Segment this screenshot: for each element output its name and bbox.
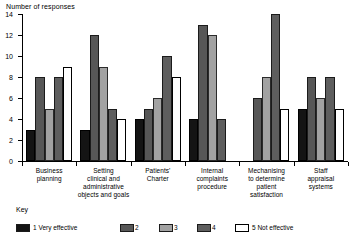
x-axis-category-label: Internalcomplaintsprocedure — [185, 167, 239, 191]
legend-swatch-icon — [159, 224, 173, 232]
legend-swatch-icon — [197, 224, 211, 232]
legend-swatch-icon — [16, 224, 30, 232]
bar-series-5-group-1 — [63, 67, 72, 162]
legend-item-5: 5 Not effective — [235, 222, 293, 234]
bar-series-2-group-1 — [35, 77, 44, 161]
x-axis-tick — [185, 162, 186, 166]
legend-swatch-icon — [235, 224, 249, 232]
bar-group — [22, 14, 76, 161]
legend-item-4: 4 — [197, 222, 216, 234]
category-label-line: Setting — [76, 167, 130, 175]
category-label-line: Staff — [294, 167, 348, 175]
x-axis-category-label: Staffappraisalsystems — [294, 167, 348, 191]
category-label-line: complaints — [185, 175, 239, 183]
bar-series-2-group-4 — [198, 25, 207, 162]
category-label-line: satisfaction — [239, 191, 293, 199]
category-label-line: clinical and — [76, 175, 130, 183]
y-axis-tick-label: 14 — [5, 11, 13, 18]
bar-series-4-group-1 — [54, 77, 63, 161]
bar-group — [294, 14, 348, 161]
x-axis-tick — [22, 162, 23, 166]
y-axis-tick-label: 12 — [5, 32, 13, 39]
x-axis-tick — [348, 162, 349, 166]
x-axis-category-label: Patients'Charter — [131, 167, 185, 183]
legend-item-2: 2 — [120, 222, 139, 234]
legend-title: Key — [16, 206, 28, 214]
category-label-line: administrative — [76, 183, 130, 191]
legend-label: 2 — [135, 224, 139, 232]
category-label-line: objects and goals — [76, 191, 130, 199]
category-label-line: planning — [22, 175, 76, 183]
bar-series-5-group-6 — [335, 109, 344, 162]
bar-series-2-group-3 — [144, 109, 153, 162]
bar-chart: Number of responses 02468101214 Business… — [0, 0, 354, 238]
category-label-line: procedure — [185, 183, 239, 191]
bar-series-3-group-2 — [99, 67, 108, 162]
bar-series-4-group-2 — [108, 109, 117, 162]
bar-series-3-group-3 — [153, 98, 162, 161]
bar-series-5-group-3 — [172, 77, 181, 161]
category-label-line: systems — [294, 183, 348, 191]
category-label-line: Patients' — [131, 167, 185, 175]
bar-series-1-group-2 — [80, 130, 89, 162]
y-axis-tick-label: 0 — [9, 158, 13, 165]
bar-series-1-group-1 — [26, 130, 35, 162]
y-axis-tick-label: 8 — [9, 74, 13, 81]
legend-item-3: 3 — [159, 222, 178, 234]
legend-label: 1 Very effective — [33, 224, 77, 232]
bar-series-1-group-6 — [298, 109, 307, 162]
x-axis-tick — [131, 162, 132, 166]
x-axis-category-label: Settingclinical andadministrativeobjects… — [76, 167, 130, 199]
bar-series-2-group-5 — [253, 98, 262, 161]
bar-group — [185, 14, 239, 161]
bar-series-1-group-4 — [189, 119, 198, 161]
y-axis-tick-label: 2 — [9, 137, 13, 144]
bar-series-2-group-6 — [307, 77, 316, 161]
category-label-line: appraisal — [294, 175, 348, 183]
bar-series-1-group-3 — [135, 119, 144, 161]
x-axis-category-label: Mechanisingto determinepatientsatisfacti… — [239, 167, 293, 199]
x-axis-tick — [294, 162, 295, 166]
category-label-line: Mechanising — [239, 167, 293, 175]
y-axis-tick-label: 4 — [9, 116, 13, 123]
y-axis-title: Number of responses — [6, 2, 75, 11]
plot-area: 02468101214 — [22, 14, 348, 162]
bar-series-4-group-5 — [271, 14, 280, 161]
bar-series-2-group-2 — [90, 35, 99, 161]
bar-series-3-group-5 — [262, 77, 271, 161]
x-axis-tick — [76, 162, 77, 166]
bar-series-3-group-1 — [45, 109, 54, 162]
legend-label: 4 — [212, 224, 216, 232]
legend-item-1: 1 Very effective — [16, 222, 77, 234]
category-label-line: patient — [239, 183, 293, 191]
legend-label: 5 Not effective — [252, 224, 293, 232]
legend-label: 3 — [174, 224, 178, 232]
bar-group — [76, 14, 130, 161]
bar-series-5-group-5 — [280, 109, 289, 162]
legend: 1 Very effective2345 Not effective — [16, 222, 346, 234]
category-label-line: Internal — [185, 167, 239, 175]
x-axis-category-label: Businessplanning — [22, 167, 76, 183]
x-axis-tick — [239, 162, 240, 166]
bar-series-4-group-3 — [162, 56, 171, 161]
legend-swatch-icon — [120, 224, 134, 232]
bar-group — [239, 14, 293, 161]
category-label-line: Business — [22, 167, 76, 175]
bar-series-3-group-4 — [208, 35, 217, 161]
y-axis-tick-label: 6 — [9, 95, 13, 102]
bar-series-3-group-6 — [316, 98, 325, 161]
bar-series-5-group-2 — [117, 119, 126, 161]
bar-series-4-group-6 — [325, 77, 334, 161]
category-label-line: Charter — [131, 175, 185, 183]
bar-group — [131, 14, 185, 161]
category-label-line: to determine — [239, 175, 293, 183]
bar-series-4-group-4 — [217, 119, 226, 161]
y-axis-tick-label: 10 — [5, 53, 13, 60]
